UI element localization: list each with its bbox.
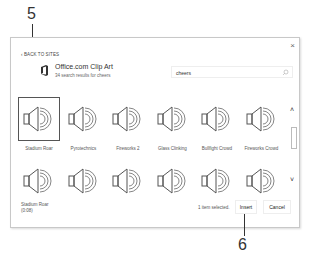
scroll-down-button[interactable]: ˅	[290, 176, 294, 183]
back-to-sites-link[interactable]: ‹ BACK TO SITES	[21, 52, 59, 57]
callout-6-line	[244, 214, 245, 236]
speaker-icon	[201, 106, 235, 132]
scroll-up-button[interactable]: ˄	[290, 106, 294, 113]
speaker-icon	[246, 168, 280, 194]
selected-item-duration: (0:08)	[21, 208, 49, 214]
speaker-icon	[68, 106, 102, 132]
office-icon	[40, 65, 49, 76]
speaker-icon	[246, 106, 280, 132]
speaker-icon	[112, 168, 146, 194]
callout-5: 5	[27, 6, 36, 22]
selection-status: 1 item selected.	[198, 205, 230, 210]
speaker-icon	[157, 168, 191, 194]
search-value: cheers	[176, 70, 191, 76]
speaker-icon	[201, 168, 235, 194]
search-icon[interactable]	[282, 69, 289, 76]
tile-label: Fireworks Crowd	[237, 146, 287, 151]
tile-label: Fireworks 2	[103, 146, 153, 151]
speaker-icon	[157, 106, 191, 132]
insert-button[interactable]: Insert	[235, 200, 257, 214]
tile-label: Stadium Roar	[14, 146, 64, 151]
tile-label: Pyrotechnics	[59, 146, 109, 151]
callout-6: 6	[238, 237, 247, 253]
search-input[interactable]: cheers	[171, 66, 293, 78]
scrollbar-thumb[interactable]	[291, 127, 297, 149]
speaker-icon	[23, 168, 57, 194]
close-button[interactable]: ×	[290, 42, 295, 50]
speaker-icon	[68, 168, 102, 194]
cancel-button[interactable]: Cancel	[263, 200, 291, 214]
clip-art-dialog: × ‹ BACK TO SITES Office.com Clip Art 34…	[10, 37, 300, 228]
tile-label: Glass Clinking	[148, 146, 198, 151]
search-results-count: 34 search results for cheers	[55, 73, 111, 78]
speaker-icon	[112, 106, 146, 132]
tile-label: Bullfight Crowd	[192, 146, 242, 151]
selected-item-info: Stadium Roar (0:08)	[21, 202, 49, 214]
speaker-icon	[23, 106, 57, 132]
source-title: Office.com Clip Art	[55, 63, 113, 70]
